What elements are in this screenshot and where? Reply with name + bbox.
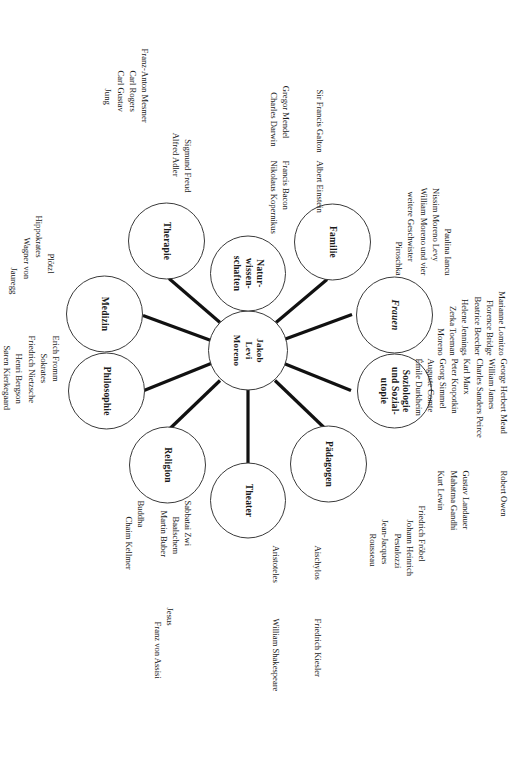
- names-paedagogen: Friedrich Fröbel Johann Heinrich Pestalo…: [367, 505, 428, 695]
- names-naturwissenschaften-column-1: Sir Francis Galton Gregor Mendel Charles…: [267, 0, 326, 152]
- name-item: Alfred Adler: [170, 22, 182, 192]
- name-item: Jean-Jacques: [379, 505, 391, 695]
- name-item: Jauregg: [8, 215, 20, 375]
- name-item: William Shakespeare: [270, 618, 282, 773]
- name-item: Chaim Kellmer: [123, 500, 135, 630]
- center-line-2: Levi: [244, 341, 254, 359]
- node-label-religion: Religion: [162, 443, 173, 486]
- name-item: Kurt Lewin: [435, 470, 447, 630]
- node-frauen[interactable]: Frauen: [356, 276, 433, 353]
- names-soziologie-column-2: Robert Owen Gustav Landauer Mahatma Gand…: [435, 470, 510, 630]
- node-philosophie[interactable]: Philosophie: [68, 352, 145, 429]
- names-religion-column-2: Jesus Franz von Assisi: [152, 607, 176, 757]
- name-item: Albert Einstein: [314, 160, 326, 330]
- name-item: Francis Bacon: [280, 160, 292, 330]
- soziologie-line-2: und Sozial-: [390, 367, 400, 415]
- natur-line-1: Natur-: [255, 259, 265, 287]
- name-item: Charles Darwin: [267, 0, 279, 152]
- name-item: Nikolaus Kopernikus: [267, 160, 279, 330]
- edge-center-medizin: [143, 315, 211, 340]
- soziologie-line-1: Soziologie: [401, 369, 411, 412]
- center-line-3: Moreno: [232, 334, 242, 366]
- name-item: Plötzl: [45, 215, 57, 375]
- names-therapie-column-2: Franz-Anton Mesmer Carl Rogers Carl Gust…: [102, 48, 151, 228]
- node-label-frauen: Frauen: [389, 295, 400, 334]
- soziologie-line-3: utopie: [379, 377, 389, 404]
- name-item: Gregor Mendel: [280, 0, 292, 152]
- names-medizin: Plötzl Hippokrates Wagner von Jauregg: [8, 215, 57, 375]
- natur-line-2: wissen-: [244, 258, 254, 289]
- node-label-naturwissenschaften: Natur- wissen- schaften: [231, 251, 265, 294]
- name-item: Beatrice Beecher: [471, 150, 483, 355]
- name-item: Friedrich Kiesler: [312, 618, 324, 773]
- node-theater[interactable]: Theater: [210, 462, 286, 538]
- name-item: Friedrich Fröbel: [416, 505, 428, 695]
- name-item: Blaise Pascal: [0, 335, 1, 555]
- node-label-theater: Theater: [242, 479, 253, 521]
- names-naturwissenschaften-column-2: Albert Einstein Francis Bacon Nikolaus K…: [267, 160, 326, 330]
- node-paedagogen[interactable]: Pädagogen: [290, 425, 367, 502]
- node-label-medizin: Medizin: [99, 292, 110, 335]
- natur-line-3: schaften: [232, 255, 242, 290]
- names-frauen: Marianne Lomitzo Florence Bridge Beatric…: [435, 150, 508, 355]
- node-label-paedagogen: Pädagogen: [323, 436, 334, 490]
- name-item: Hippokrates: [33, 215, 45, 375]
- names-theater-column-2: Friedrich Kiesler William Shakespeare: [270, 618, 324, 773]
- name-item: Rousseau: [367, 505, 379, 695]
- name-item: Johann Heinrich: [404, 505, 416, 695]
- name-item: Sir Francis Galton: [314, 0, 326, 152]
- edge-center-religion: [170, 380, 220, 428]
- names-therapie-column-1: Sigmund Freud Alfred Adler: [170, 22, 194, 192]
- name-item: Sabbatai Zwi: [182, 500, 194, 630]
- node-label-center: Jakob Levi Moreno: [231, 330, 265, 370]
- node-label-familie: Familie: [327, 221, 338, 261]
- name-item: Moreno: [435, 150, 447, 355]
- node-label-soziologie: Soziologie und Sozial- utopie: [378, 363, 412, 419]
- name-item: Mahatma Gandhi: [447, 470, 459, 630]
- name-item: Florence Bridge: [484, 150, 496, 355]
- name-item: Jesus: [164, 607, 176, 757]
- node-medizin[interactable]: Medizin: [66, 275, 143, 352]
- edge-center-philosophie: [144, 363, 211, 390]
- name-item: Gustav Landauer: [460, 470, 472, 630]
- name-item: Sigmund Freud: [182, 22, 194, 192]
- name-item: Franz von Assisi: [152, 607, 164, 757]
- center-line-1: Jakob: [255, 338, 265, 363]
- node-label-therapie: Therapie: [161, 217, 172, 264]
- name-item: Robert Owen: [498, 470, 510, 630]
- node-religion[interactable]: Religion: [129, 426, 206, 503]
- name-item: Wagner von: [20, 215, 32, 375]
- name-item: William Moreno und vier: [417, 60, 429, 275]
- name-item: Jung: [102, 48, 114, 228]
- name-item: Franz-Anton Mesmer: [139, 48, 151, 228]
- name-item: Buddha: [135, 500, 147, 630]
- name-item: Piroschka: [393, 60, 405, 275]
- name-item: Helene Jennings: [459, 150, 471, 355]
- name-item: weitere Geschwister: [405, 60, 417, 275]
- node-label-philosophie: Philosophie: [101, 362, 112, 419]
- name-item: Marianne Lomitzo: [496, 150, 508, 355]
- name-item: Carl Gustav: [114, 48, 126, 228]
- edge-center-paedagogen: [275, 380, 324, 427]
- name-item: Pestalozzi: [391, 505, 403, 695]
- name-item: Zerka Toeman: [447, 150, 459, 355]
- name-item: Carl Rogers: [127, 48, 139, 228]
- edge-center-soziologie: [284, 363, 351, 390]
